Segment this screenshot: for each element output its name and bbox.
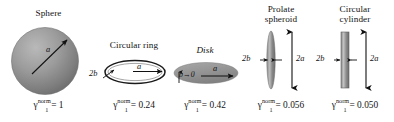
gamma-subscript: 1	[196, 106, 199, 113]
sphere-formula: γnorm1 = 1	[0, 100, 97, 110]
disk-label-b-to-zero: b→0	[179, 70, 195, 79]
panel-circular-cylinder-title-line2: cylinder	[316, 14, 394, 24]
panel-prolate-spheroid-title-line1: Prolate	[242, 4, 320, 14]
gamma-superscript: norm	[262, 97, 275, 104]
equals-sign: =	[202, 100, 207, 110]
panel-disk-title: Disk	[163, 45, 247, 55]
equals-sign: =	[131, 100, 136, 110]
circular-cylinder-formula: γnorm1 = 0.050	[316, 100, 394, 110]
gamma-subscript: 1	[270, 106, 273, 113]
panel-sphere: Sphere a γnor	[0, 0, 97, 122]
panel-sphere-title: Sphere	[0, 8, 97, 18]
circular-ring-value: 0.24	[138, 100, 154, 110]
panel-circular-cylinder: Circular cylinder	[316, 0, 394, 122]
gamma-subscript: 1	[125, 106, 128, 113]
gamma-subscript: 1	[344, 106, 347, 113]
equals-sign: =	[349, 100, 354, 110]
cylinder-label-2b: 2b	[316, 54, 324, 63]
prolate-spheroid-formula: γnorm1 = 0.056	[242, 100, 320, 110]
circular-cylinder-value: 0.050	[357, 100, 378, 110]
cylinder-label-2a: 2a	[370, 54, 378, 63]
panel-prolate-spheroid: Prolate spheroid	[242, 0, 320, 122]
gamma-subscript: 1	[45, 106, 48, 113]
equals-sign: =	[275, 100, 280, 110]
gamma-superscript: norm	[117, 97, 130, 104]
disk-formula: γnorm1 = 0.42	[163, 100, 247, 110]
prolate-label-2a: 2a	[296, 54, 304, 63]
gamma-superscript: norm	[188, 97, 201, 104]
gamma-superscript: norm	[38, 97, 51, 104]
ring-label-2b: 2b	[89, 69, 97, 78]
prolate-label-2b: 2b	[242, 54, 250, 63]
prolate-spheroid-value: 0.056	[283, 100, 304, 110]
panel-disk: Disk	[163, 0, 247, 122]
disk-value: 0.42	[209, 100, 225, 110]
disk-label-a: a	[213, 64, 217, 73]
sphere-shape	[10, 26, 86, 96]
panel-prolate-spheroid-title-line2: spheroid	[242, 14, 320, 24]
equals-sign: =	[51, 100, 56, 110]
figure-container: Sphere a γnor	[0, 0, 394, 122]
sphere-label-a: a	[46, 45, 50, 54]
gamma-superscript: norm	[336, 97, 349, 104]
panel-circular-cylinder-title-line1: Circular	[316, 4, 394, 14]
ring-label-a: a	[137, 62, 141, 71]
sphere-value: 1	[59, 100, 64, 110]
circular-ring-shape	[101, 56, 171, 90]
